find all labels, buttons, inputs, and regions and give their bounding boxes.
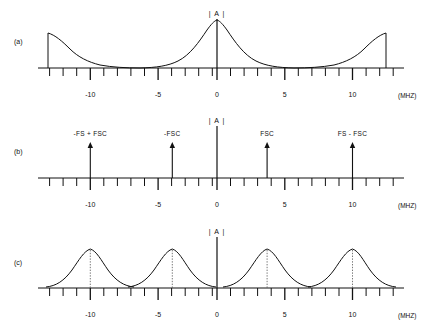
panel-a-envelope-left xyxy=(48,33,140,68)
panel-c-label: (c) xyxy=(14,259,22,267)
panel-b-marker-fsc: FSC xyxy=(260,130,274,178)
panel-a-tick-label-5: 5 xyxy=(283,91,287,98)
panel-c-ticks xyxy=(50,288,394,300)
panel-b-ticks xyxy=(50,178,394,190)
panel-a-tick-label-neg5: -5 xyxy=(155,91,161,98)
panel-c-svg: (c) | A | xyxy=(0,215,433,329)
panel-a-svg: (a) | A | xyxy=(0,0,433,108)
panel-c-tick-label-0: 0 xyxy=(215,311,219,318)
panel-c-plot: (c) | A | xyxy=(0,215,433,329)
panel-b-marker--fsc: -FSC xyxy=(164,130,180,178)
panel-b-label: (b) xyxy=(14,148,23,156)
panel-b-tick-label-neg5: -5 xyxy=(155,201,161,208)
panel-a-plot: (a) | A | xyxy=(0,0,433,108)
panel-a-envelope-right xyxy=(294,33,386,68)
panel-c-tick-label-10: 10 xyxy=(349,311,357,318)
panel-a-label: (a) xyxy=(14,38,23,46)
panel-b-tick-label-neg10: -10 xyxy=(85,201,95,208)
panel-b-amplitude-label: | A | xyxy=(209,117,225,125)
panel-c-amplitude-label: | A | xyxy=(209,228,225,236)
panel-b-tick-label-5: 5 xyxy=(283,201,287,208)
panel-b-marker-fs-minus-fsc: FS - FSC xyxy=(338,130,367,178)
panel-c-unit-label: (MHZ) xyxy=(398,312,416,320)
panel-c: (c) | A | xyxy=(0,215,433,329)
panel-b-marker-label-3: FS - FSC xyxy=(338,130,367,137)
panel-c-lobe-3 xyxy=(308,249,396,287)
panel-a-tick-label-10: 10 xyxy=(349,91,357,98)
panel-c-tick-label-neg5: -5 xyxy=(155,311,161,318)
panel-a-unit-label: (MHZ) xyxy=(398,92,416,100)
panel-c-tick-label-5: 5 xyxy=(283,311,287,318)
panel-a-amplitude-label: | A | xyxy=(209,10,225,18)
panel-a: (a) | A | xyxy=(0,0,433,108)
panel-c-tick-label-neg10: -10 xyxy=(85,311,95,318)
panel-a-tick-label-neg10: -10 xyxy=(85,91,95,98)
panel-b-unit-label: (MHZ) xyxy=(398,202,416,210)
panel-b-plot: (b) | A | xyxy=(0,105,433,215)
panel-a-tick-label-0: 0 xyxy=(215,91,219,98)
panel-b-tick-label-10: 10 xyxy=(349,201,357,208)
panel-b-svg: (b) | A | xyxy=(0,105,433,215)
panel-b-tick-label-0: 0 xyxy=(215,201,219,208)
panel-b-marker--fs-plus-fsc: -FS + FSC xyxy=(74,130,108,178)
panel-b-marker-label-0: -FS + FSC xyxy=(74,130,108,137)
panel-b: (b) | A | xyxy=(0,105,433,215)
panel-b-marker-label-2: FSC xyxy=(260,130,274,137)
panel-a-ticks xyxy=(50,68,394,80)
spectrum-figure: (a) | A | xyxy=(0,0,433,329)
panel-b-marker-label-1: -FSC xyxy=(164,130,180,137)
